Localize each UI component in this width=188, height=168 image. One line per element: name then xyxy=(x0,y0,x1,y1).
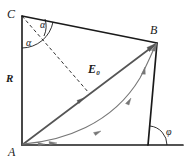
vector-AB-line xyxy=(22,44,156,145)
point-label-c: C xyxy=(7,8,15,20)
trajectory-arrowhead-2 xyxy=(94,131,102,136)
angle-label-phi: φ xyxy=(166,127,172,137)
side-label-r: R xyxy=(6,73,13,84)
trajectory-arrowhead-3 xyxy=(126,98,132,105)
vector-label-e-subscript: 0 xyxy=(96,69,100,77)
figure-container: C B A R α α φ E0 xyxy=(0,0,188,168)
angle-arc-phi xyxy=(150,126,167,145)
point-label-a: A xyxy=(8,146,15,158)
geometry-diagram xyxy=(0,0,188,168)
angle-label-alpha-upper: α xyxy=(40,20,45,30)
trajectory-arrowhead-4 xyxy=(142,67,146,74)
vector-label-e0: E0 xyxy=(88,63,100,77)
angle-label-alpha-lower: α xyxy=(26,38,31,48)
point-label-b: B xyxy=(150,24,157,36)
vector-label-e-base: E xyxy=(88,62,96,76)
